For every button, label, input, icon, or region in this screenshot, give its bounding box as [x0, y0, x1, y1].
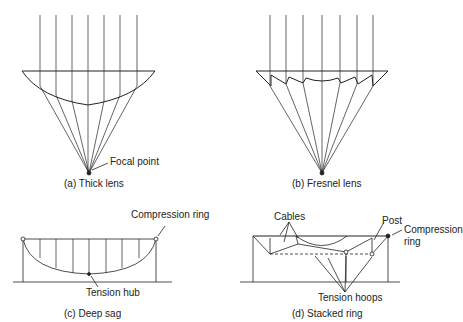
tension-hoops-label: Tension hoops: [318, 292, 383, 303]
tension-hub-label: Tension hub: [86, 287, 140, 298]
compression-ring-label: Compression ring: [131, 209, 209, 220]
compression-ring-label-d2: ring: [404, 236, 421, 247]
fresnel-lens-diagram: [256, 15, 388, 175]
caption-b: (b) Fresnel lens: [292, 178, 361, 189]
caption-d: (d) Stacked ring: [292, 308, 363, 319]
caption-c: (c) Deep sag: [64, 308, 121, 319]
compression-ring-label-d: Compression: [404, 224, 463, 235]
caption-a: (a) Thick lens: [64, 178, 124, 189]
deep-sag-diagram: [13, 226, 172, 287]
cables-label: Cables: [274, 211, 305, 222]
focal-point-label: Focal point: [110, 156, 159, 167]
stacked-ring-diagram: [240, 222, 402, 292]
post-label: Post: [382, 215, 402, 226]
thick-lens-diagram: [22, 15, 155, 175]
